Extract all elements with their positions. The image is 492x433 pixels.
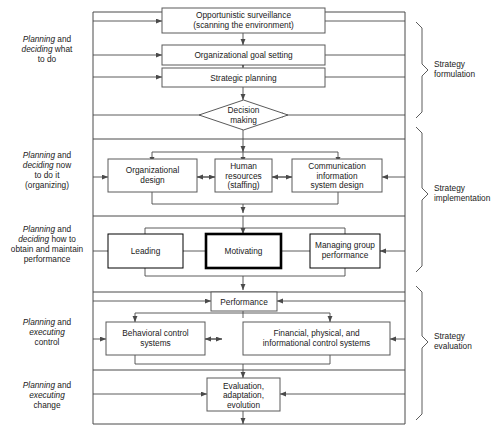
node-managing-group-performance: Managing group performance [310,234,380,268]
node-human-resources: Human resources (staffing) [215,159,272,192]
node-evaluation-adaptation-evolution: Evaluation, adaptation, evolution [207,378,280,411]
stage-1-line-2: to do it [35,170,61,180]
stage-3-line-1-em: executing [29,327,65,337]
bracket-strategy-implementation: Strategy implementation [416,127,491,272]
node-evaluation-line-2: evolution [227,400,261,410]
bracket-1-line-0: Strategy [434,183,466,193]
svg-text:Planning and: Planning and [23,150,72,160]
node-opportunistic-line-1: (scanning the environment) [193,20,294,30]
node-motivating-label: Motivating [225,246,263,256]
node-communication-information-system-design: Communication information system design [292,159,382,192]
node-behavioral-control-line-0: Behavioral control [122,328,189,338]
bracket-2-line-1: evaluation [434,341,472,351]
svg-text:deciding what: deciding what [22,44,73,54]
node-strategic-planning-label: Strategic planning [210,73,277,83]
stage-0-line-2: to do [38,54,57,64]
node-opportunistic-surveillance: Opportunistic surveillance (scanning the… [162,8,325,33]
svg-text:Planning and: Planning and [23,317,72,327]
stage-1-line-3: (organizing) [25,180,69,190]
stage-label-planning-executing-control: Planning and executing control [23,317,72,347]
stage-3-line-0-em: Planning [23,317,56,327]
node-strategic-planning: Strategic planning [162,68,325,87]
bracket-2-line-0: Strategy [434,331,466,341]
node-organizational-design: Organizational design [108,159,197,192]
bracket-0-line-1: formulation [434,69,475,79]
svg-text:Planning and: Planning and [23,224,72,234]
bracket-strategy-formulation: Strategy formulation [416,22,475,118]
svg-text:executing: executing [29,390,65,400]
node-org-design-line-0: Organizational [126,165,180,175]
bracket-1-line-1: implementation [434,193,491,203]
svg-text:Planning and: Planning and [23,380,72,390]
stage-4-line-1-em: executing [29,390,65,400]
node-evaluation-line-1: adaptation, [223,390,264,400]
node-decision-making-line-1: making [230,115,257,125]
stage-label-planning-deciding-how: Planning and deciding how to obtain and … [11,224,84,264]
node-leading: Leading [108,234,183,268]
node-decision-making: Decision making [199,100,288,130]
node-financial-control-line-0: Financial, physical, and [273,328,360,338]
node-decision-making-line-0: Decision [228,105,260,115]
node-org-design-line-1: design [140,175,165,185]
node-behavioral-control-systems: Behavioral control systems [106,322,205,355]
node-evaluation-line-0: Evaluation, [223,381,264,391]
stage-0-line-1-em: deciding [22,44,53,54]
node-leading-label: Leading [131,246,161,256]
stage-label-planning-executing-change: Planning and executing change [23,380,72,410]
svg-text:deciding how to: deciding how to [18,234,76,244]
node-performance: Performance [211,292,277,311]
node-human-resources-line-0: Human [230,161,257,171]
process-flow-diagram: Opportunistic surveillance (scanning the… [0,0,492,433]
stage-0-line-0-em: Planning [23,34,56,44]
stage-1-line-0-em: Planning [23,150,56,160]
bracket-0-line-0: Strategy [434,59,466,69]
node-comm-info-line-1: information [316,171,357,181]
stage-1-line-1-em: deciding [23,160,54,170]
node-organizational-goal-setting: Organizational goal setting [162,45,325,65]
stage-2-line-1-em: deciding [18,234,49,244]
node-human-resources-line-2: (staffing) [227,180,259,190]
svg-text:Planning and: Planning and [23,34,72,44]
stage-2-line-2: obtain and maintain [11,244,84,254]
stage-2-line-3: performance [24,254,71,264]
node-managing-group-line-1: performance [322,250,369,260]
stage-label-planning-deciding-what: Planning and deciding what to do [22,34,73,64]
stage-4-line-0-em: Planning [23,380,56,390]
node-opportunistic-line-0: Opportunistic surveillance [196,10,291,20]
node-goal-setting-label: Organizational goal setting [194,50,293,60]
node-human-resources-line-1: resources [225,171,261,181]
node-performance-label: Performance [220,297,268,307]
stage-3-line-2: control [35,337,60,347]
node-financial-control-line-1: informational control systems [263,338,370,348]
stage-2-line-0-em: Planning [23,224,56,234]
stage-label-planning-deciding-now: Planning and deciding now to do it (orga… [23,150,72,190]
node-comm-info-line-0: Communication [308,161,366,171]
node-managing-group-line-0: Managing group [315,240,375,250]
svg-text:executing: executing [29,327,65,337]
node-motivating: Motivating [206,234,281,268]
stage-4-line-2: change [33,400,61,410]
node-comm-info-line-2: system design [310,180,363,190]
node-financial-control-systems: Financial, physical, and informational c… [243,322,390,355]
svg-text:deciding now: deciding now [23,160,72,170]
bracket-strategy-evaluation: Strategy evaluation [416,286,472,420]
node-behavioral-control-line-1: systems [140,338,170,348]
